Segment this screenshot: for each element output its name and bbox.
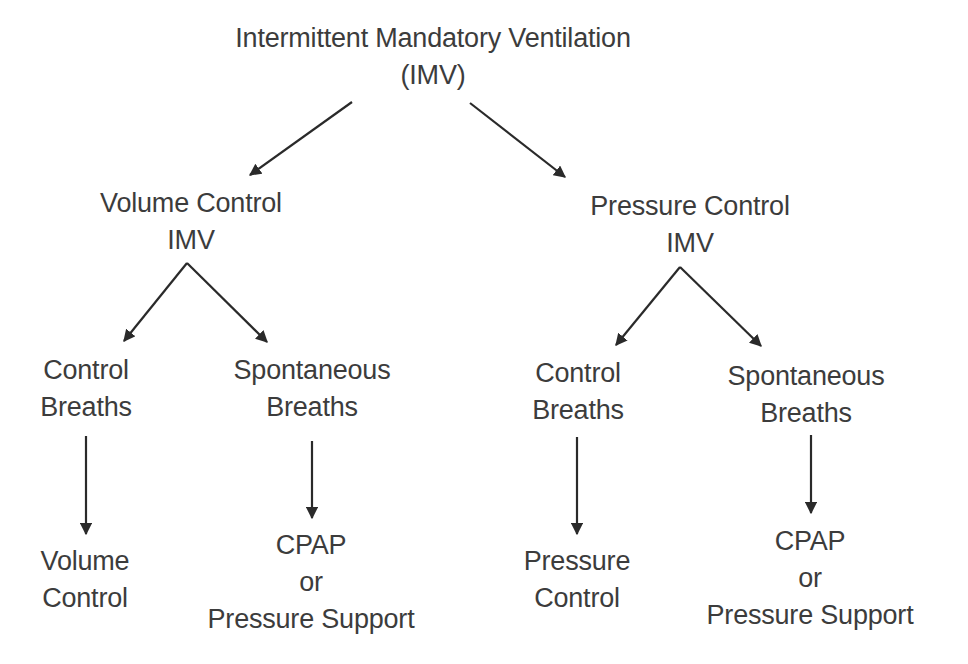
node-pressure-control-imv: Pressure Control IMV: [590, 188, 789, 262]
arrow-vc-imv-to-spontaneous-breaths: [187, 263, 267, 342]
node-pc-cpap-or-pressure-support: CPAP or Pressure Support: [707, 523, 914, 634]
node-label: Pressure Support: [707, 597, 914, 634]
node-label: Pressure Support: [208, 601, 415, 638]
node-label: CPAP: [208, 527, 415, 564]
node-pressure-control: Pressure Control: [524, 543, 630, 617]
node-label: Breaths: [40, 389, 132, 426]
node-vc-cpap-or-pressure-support: CPAP or Pressure Support: [208, 527, 415, 638]
node-volume-control-imv: Volume Control IMV: [100, 185, 282, 259]
node-label: Control: [40, 352, 132, 389]
arrow-pc-imv-to-spontaneous-breaths: [680, 267, 761, 346]
node-label: or: [707, 560, 914, 597]
arrow-root-to-volume-control-imv: [250, 102, 352, 175]
node-label: IMV: [590, 225, 789, 262]
arrow-pc-imv-to-control-breaths: [616, 267, 680, 345]
node-label: Control: [532, 355, 624, 392]
diagram-canvas: Intermittent Mandatory Ventilation (IMV)…: [0, 0, 968, 664]
node-volume-control: Volume Control: [41, 543, 130, 617]
node-label: IMV: [100, 222, 282, 259]
node-label: Control: [524, 580, 630, 617]
node-label: or: [208, 564, 415, 601]
node-root-imv: Intermittent Mandatory Ventilation (IMV): [235, 20, 630, 94]
node-label: Volume: [41, 543, 130, 580]
node-label: CPAP: [707, 523, 914, 560]
node-label: Pressure: [524, 543, 630, 580]
node-label: Volume Control: [100, 185, 282, 222]
node-label: Breaths: [728, 395, 885, 432]
node-vc-control-breaths: Control Breaths: [40, 352, 132, 426]
node-label: Pressure Control: [590, 188, 789, 225]
node-label: Spontaneous: [234, 352, 391, 389]
arrow-root-to-pressure-control-imv: [470, 103, 565, 177]
node-pc-spontaneous-breaths: Spontaneous Breaths: [728, 358, 885, 432]
node-label: Intermittent Mandatory Ventilation: [235, 20, 630, 57]
node-label: Breaths: [234, 389, 391, 426]
node-pc-control-breaths: Control Breaths: [532, 355, 624, 429]
node-vc-spontaneous-breaths: Spontaneous Breaths: [234, 352, 391, 426]
node-label: (IMV): [235, 57, 630, 94]
arrow-vc-imv-to-control-breaths: [124, 263, 187, 341]
node-label: Spontaneous: [728, 358, 885, 395]
node-label: Control: [41, 580, 130, 617]
node-label: Breaths: [532, 392, 624, 429]
